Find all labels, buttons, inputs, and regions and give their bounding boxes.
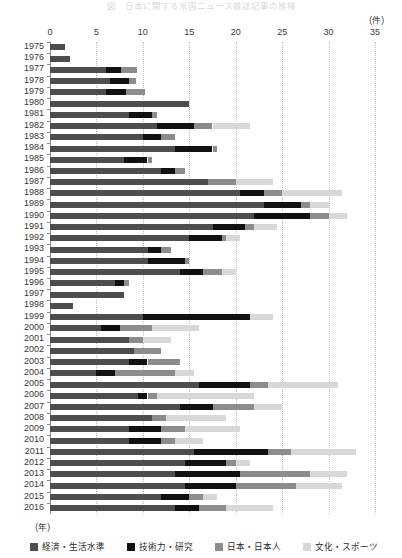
bar-segment[interactable] <box>124 280 129 286</box>
bar-segment[interactable] <box>199 505 227 511</box>
bar-segment[interactable] <box>203 269 222 275</box>
bar-segment[interactable] <box>236 483 296 489</box>
bar-segment[interactable] <box>124 157 147 163</box>
bar-segment[interactable] <box>152 415 166 421</box>
bar-segment[interactable] <box>50 134 143 140</box>
bar-segment[interactable] <box>50 505 175 511</box>
bar-segment[interactable] <box>50 382 199 388</box>
bar-segment[interactable] <box>199 382 250 388</box>
legend-item[interactable]: 文化・スポーツ <box>303 542 378 552</box>
bar-segment[interactable] <box>50 67 106 73</box>
bar-segment[interactable] <box>310 471 347 477</box>
bar-segment[interactable] <box>50 494 161 500</box>
bar-segment[interactable] <box>50 415 152 421</box>
bar-segment[interactable] <box>143 337 171 343</box>
bar-segment[interactable] <box>185 258 190 264</box>
bar-segment[interactable] <box>161 494 189 500</box>
bar-segment[interactable] <box>50 404 180 410</box>
bar-segment[interactable] <box>175 471 240 477</box>
bar-segment[interactable] <box>254 224 277 230</box>
bar-segment[interactable] <box>148 247 162 253</box>
bar-segment[interactable] <box>161 426 184 432</box>
bar-segment[interactable] <box>50 337 129 343</box>
bar-segment[interactable] <box>250 314 273 320</box>
bar-segment[interactable] <box>161 168 175 174</box>
bar-segment[interactable] <box>50 460 185 466</box>
bar-segment[interactable] <box>208 179 236 185</box>
bar-segment[interactable] <box>148 157 153 163</box>
bar-segment[interactable] <box>50 190 240 196</box>
bar-segment[interactable] <box>226 505 272 511</box>
bar-segment[interactable] <box>50 426 129 432</box>
bar-segment[interactable] <box>129 337 143 343</box>
bar-segment[interactable] <box>245 224 254 230</box>
bar-segment[interactable] <box>310 202 329 208</box>
bar-segment[interactable] <box>268 382 338 388</box>
bar-segment[interactable] <box>50 471 175 477</box>
bar-segment[interactable] <box>213 224 246 230</box>
bar-segment[interactable] <box>213 146 218 152</box>
bar-segment[interactable] <box>50 89 106 95</box>
bar-segment[interactable] <box>50 112 129 118</box>
bar-segment[interactable] <box>50 303 73 309</box>
bar-segment[interactable] <box>129 426 162 432</box>
bar-segment[interactable] <box>301 202 310 208</box>
bar-segment[interactable] <box>143 134 162 140</box>
bar-segment[interactable] <box>264 190 283 196</box>
bar-segment[interactable] <box>50 56 70 62</box>
bar-segment[interactable] <box>129 78 136 84</box>
bar-segment[interactable] <box>50 292 124 298</box>
bar-segment[interactable] <box>134 348 162 354</box>
bar-segment[interactable] <box>213 404 255 410</box>
bar-segment[interactable] <box>50 179 208 185</box>
bar-segment[interactable] <box>157 393 255 399</box>
bar-segment[interactable] <box>282 190 342 196</box>
bar-segment[interactable] <box>115 280 124 286</box>
bar-segment[interactable] <box>264 202 301 208</box>
bar-segment[interactable] <box>250 382 269 388</box>
bar-segment[interactable] <box>175 146 212 152</box>
bar-segment[interactable] <box>50 269 180 275</box>
bar-segment[interactable] <box>106 67 121 73</box>
bar-segment[interactable] <box>236 460 250 466</box>
bar-segment[interactable] <box>50 483 185 489</box>
bar-segment[interactable] <box>50 235 189 241</box>
bar-segment[interactable] <box>161 134 175 140</box>
bar-segment[interactable] <box>175 505 198 511</box>
bar-segment[interactable] <box>50 157 124 163</box>
bar-segment[interactable] <box>194 449 268 455</box>
bar-segment[interactable] <box>148 393 157 399</box>
bar-segment[interactable] <box>101 325 120 331</box>
bar-segment[interactable] <box>50 325 101 331</box>
bar-segment[interactable] <box>226 235 240 241</box>
bar-segment[interactable] <box>152 325 198 331</box>
bar-segment[interactable] <box>194 123 213 129</box>
bar-segment[interactable] <box>50 359 129 365</box>
bar-segment[interactable] <box>148 258 185 264</box>
bar-segment[interactable] <box>175 168 184 174</box>
bar-segment[interactable] <box>143 314 250 320</box>
bar-segment[interactable] <box>152 112 157 118</box>
bar-segment[interactable] <box>236 179 273 185</box>
bar-segment[interactable] <box>138 393 147 399</box>
bar-segment[interactable] <box>129 438 162 444</box>
bar-segment[interactable] <box>50 370 96 376</box>
bar-segment[interactable] <box>254 404 282 410</box>
bar-segment[interactable] <box>50 449 194 455</box>
bar-segment[interactable] <box>291 449 356 455</box>
bar-segment[interactable] <box>121 67 138 73</box>
bar-segment[interactable] <box>240 190 263 196</box>
bar-segment[interactable] <box>50 202 264 208</box>
bar-segment[interactable] <box>129 112 152 118</box>
bar-segment[interactable] <box>50 280 115 286</box>
bar-segment[interactable] <box>96 370 115 376</box>
bar-segment[interactable] <box>222 269 236 275</box>
bar-segment[interactable] <box>166 415 226 421</box>
bar-segment[interactable] <box>175 370 194 376</box>
bar-segment[interactable] <box>329 213 348 219</box>
bar-segment[interactable] <box>310 213 329 219</box>
bar-segment[interactable] <box>50 168 161 174</box>
bar-segment[interactable] <box>50 44 65 50</box>
bar-segment[interactable] <box>50 224 213 230</box>
bar-segment[interactable] <box>50 123 157 129</box>
